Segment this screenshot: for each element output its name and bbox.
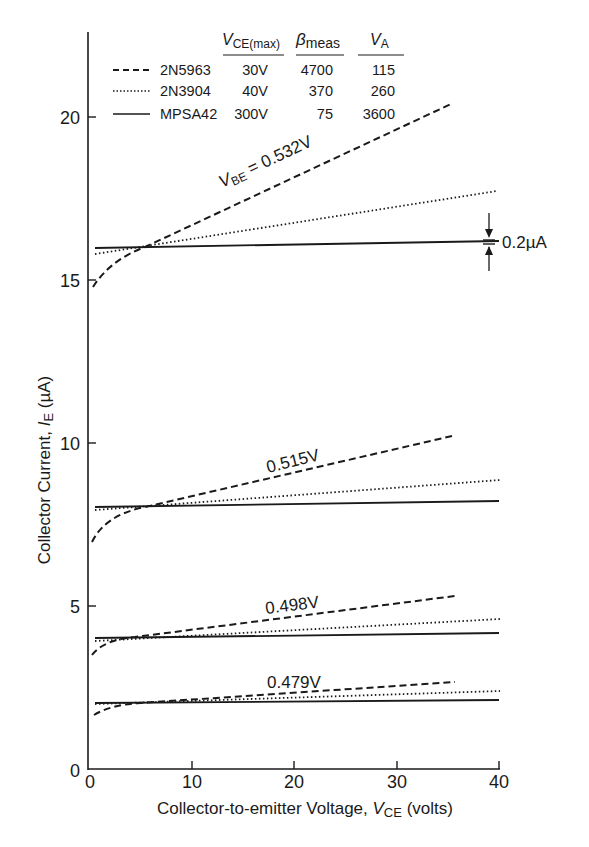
curves-vbe-0532 xyxy=(93,104,499,287)
y-tick-20: 20 xyxy=(60,108,80,128)
x-tick-20: 20 xyxy=(284,772,304,792)
y-axis-title: Collector Current, IE (µA) xyxy=(35,376,56,565)
legend-header-va: VA xyxy=(370,31,389,51)
legend-header-beta: βmeas xyxy=(295,30,340,51)
legend-table: VCE(max) βmeas VA 2N5963 30V 4700 115 2N… xyxy=(113,30,404,122)
chart-canvas: 20 15 10 5 0 0 10 20 30 40 Collector-to-… xyxy=(0,0,589,847)
x-tick-10: 10 xyxy=(182,772,202,792)
x-tick-40: 40 xyxy=(489,772,509,792)
y-tick-0: 0 xyxy=(70,761,80,781)
legend-beta-mpsa42: 75 xyxy=(317,106,333,122)
x-tick-30: 30 xyxy=(387,772,407,792)
legend-va-2n3904: 260 xyxy=(371,83,395,99)
curve-2n5963-0532 xyxy=(93,104,451,287)
label-vbe-0479: 0.479V xyxy=(267,673,322,692)
y-tick-5: 5 xyxy=(70,597,80,617)
delta-label: 0.2µA xyxy=(502,233,547,252)
y-tick-15: 15 xyxy=(60,271,80,291)
label-vbe-0532: VBE = 0.532V xyxy=(216,132,317,194)
legend-device-2n3904: 2N3904 xyxy=(160,83,211,99)
curve-mpsa42-0515 xyxy=(95,501,499,507)
legend-vce-2n5963: 30V xyxy=(242,62,268,78)
legend-vce-2n3904: 40V xyxy=(242,83,268,99)
x-axis-title: Collector-to-emitter Voltage, VCE (volts… xyxy=(157,799,453,820)
legend-beta-2n5963: 4700 xyxy=(301,62,333,78)
x-tick-0: 0 xyxy=(85,772,95,792)
legend-va-mpsa42: 3600 xyxy=(363,106,395,122)
legend-vce-mpsa42: 300V xyxy=(234,106,268,122)
legend-header-vce: VCE(max) xyxy=(222,31,280,51)
legend-device-2n5963: 2N5963 xyxy=(160,62,211,78)
y-tick-10: 10 xyxy=(60,434,80,454)
legend-va-2n5963: 115 xyxy=(372,62,395,78)
legend-beta-2n3904: 370 xyxy=(309,83,333,99)
label-vbe-0515: 0.515V xyxy=(264,445,322,477)
curve-2n5963-0515 xyxy=(92,436,452,542)
legend-device-mpsa42: MPSA42 xyxy=(160,106,217,122)
